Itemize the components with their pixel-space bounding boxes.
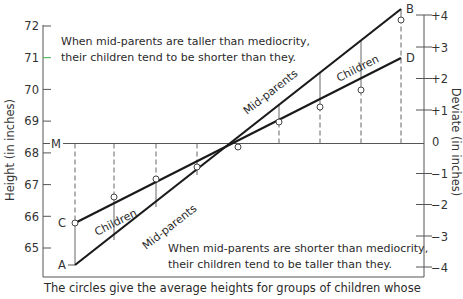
tick-label: −2 [431,198,448,212]
point-label-d: D [406,51,415,65]
data-circle [276,119,282,125]
regression-chart: 72 71 70 69 68 67 66 65 Height (in inche… [0,0,463,299]
figure-caption: The circles give the average heights for… [44,281,421,295]
tick-label: 66 [24,210,39,224]
left-axis-title: Height (in inches) [3,99,17,201]
tick-label: 72 [24,19,39,33]
note-bottom: When mid-parents are shorter than medioc… [168,242,428,271]
right-axis-labels: +4 +3 +2 +1 0 −1 −2 −3 −4 [431,9,448,275]
tick-label: +2 [431,72,448,86]
tick-label: −4 [431,261,448,275]
tick-label: −3 [431,230,448,244]
mediocrity-label: M [51,137,61,151]
note-bottom-line2: their children tend to be taller than th… [168,258,392,271]
tick-label: 0 [432,135,439,149]
data-circle [317,104,323,110]
tick-label: 71 [24,51,39,65]
data-circle [72,220,78,226]
mid-parents-label-upper: Mid-parents [241,67,301,118]
data-circle [194,164,200,170]
tick-label: +1 [431,104,448,118]
children-average-circles [72,17,404,226]
data-circle [235,144,241,150]
children-line [75,58,401,223]
tick-label: 68 [24,146,39,160]
note-top-line1: When mid-parents are taller than mediocr… [61,35,310,48]
point-label-a: A [58,258,66,272]
tick-label: +3 [431,41,448,55]
left-axis-ticks [43,26,51,248]
note-bottom-line1: When mid-parents are shorter than medioc… [168,242,428,255]
tick-label: −1 [431,167,448,181]
tick-label: 65 [24,241,39,255]
tick-label: 67 [24,178,39,192]
tick-label: +4 [431,9,448,23]
data-circle [358,87,364,93]
left-axis-labels: 72 71 70 69 68 67 66 65 [24,19,39,255]
tick-label: 70 [24,83,39,97]
point-label-b: B [406,2,414,16]
data-circle [153,176,159,182]
tick-label: 69 [24,114,39,128]
data-circle [398,17,404,23]
right-axis-title: Deviate (in inches) [449,88,463,197]
data-circle [111,194,117,200]
note-top: When mid-parents are taller than mediocr… [61,35,310,64]
note-top-line2: their children tend to be shorter than t… [61,51,296,64]
point-label-c: C [58,216,66,230]
